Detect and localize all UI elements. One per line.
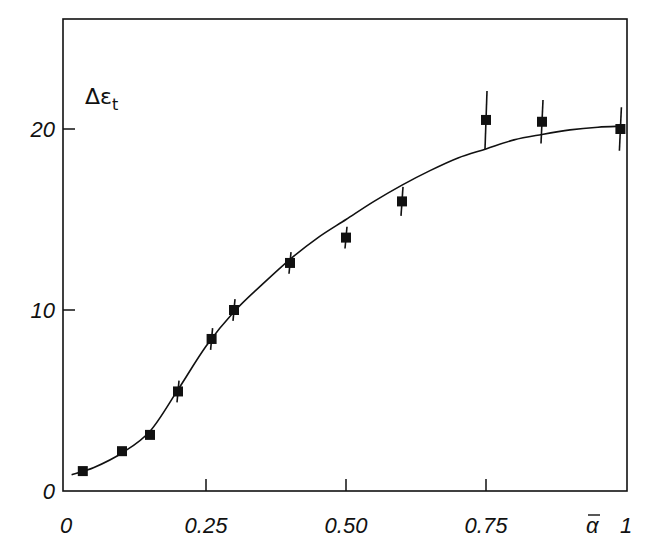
data-point (229, 305, 239, 315)
data-point (341, 233, 351, 243)
svg-text:0.50: 0.50 (325, 513, 369, 538)
data-point (615, 124, 625, 134)
svg-text:1: 1 (620, 513, 632, 538)
data-point (285, 258, 295, 268)
svg-text:0.25: 0.25 (185, 513, 229, 538)
data-point (117, 446, 127, 456)
svg-text:0: 0 (60, 513, 73, 538)
plot-frame (63, 19, 627, 491)
fit-curve (72, 126, 621, 474)
svg-text:20: 20 (30, 117, 56, 142)
data-point (397, 196, 407, 206)
chart: 00.250.500.75101020 Δεt α (0, 0, 651, 545)
svg-text:0.75: 0.75 (465, 513, 509, 538)
data-point (207, 334, 217, 344)
svg-text:α: α (586, 513, 600, 538)
tick-labels: 00.250.500.75101020 (30, 117, 633, 538)
data-point (78, 466, 88, 476)
y-axis-label: Δεt (85, 84, 118, 114)
data-point (145, 430, 155, 440)
data-point (537, 117, 547, 127)
svg-text:0: 0 (43, 479, 56, 504)
x-axis-label: α (586, 513, 600, 538)
axis-ticks (63, 129, 486, 491)
svg-text:10: 10 (31, 298, 56, 323)
data-point (481, 115, 491, 125)
data-point (173, 386, 183, 396)
